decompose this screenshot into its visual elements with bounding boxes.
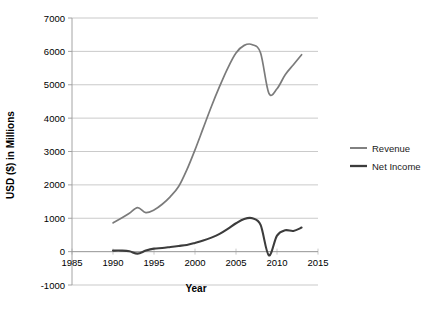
x-tick-label: 2015 xyxy=(307,257,328,268)
legend-label-net-income: Net Income xyxy=(372,161,421,172)
x-tick-label: 2005 xyxy=(225,257,246,268)
y-tick-label: 6000 xyxy=(44,46,65,57)
x-tick-label: 1995 xyxy=(143,257,164,268)
x-tick-label: 1990 xyxy=(102,257,123,268)
x-axis-title: Year xyxy=(185,283,206,294)
y-tick-label: 0 xyxy=(60,246,65,257)
y-tick-label: -1000 xyxy=(41,280,65,291)
x-tick-label: 1985 xyxy=(61,257,82,268)
x-tick-label: 2010 xyxy=(266,257,287,268)
y-tick-label: 1000 xyxy=(44,213,65,224)
legend-label-revenue: Revenue xyxy=(372,143,410,154)
line-chart: -100001000200030004000500060007000 19851… xyxy=(0,0,439,309)
y-axis-title: USD ($) in Millions xyxy=(5,111,16,199)
y-tick-label: 2000 xyxy=(44,179,65,190)
y-tick-label: 4000 xyxy=(44,113,65,124)
y-tick-label: 7000 xyxy=(44,13,65,24)
y-tick-label: 3000 xyxy=(44,146,65,157)
y-tick-label: 5000 xyxy=(44,79,65,90)
x-tick-label: 2000 xyxy=(184,257,205,268)
chart-container: -100001000200030004000500060007000 19851… xyxy=(0,0,439,309)
